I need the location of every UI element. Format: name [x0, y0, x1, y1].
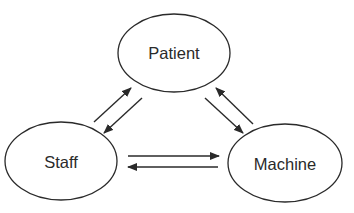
- node-staff: Staff: [5, 122, 117, 200]
- arrow-patient-to-machine: [205, 98, 243, 133]
- node-machine: Machine: [228, 124, 342, 202]
- machine-label: Machine: [254, 155, 316, 173]
- arrow-machine-to-patient: [216, 88, 253, 124]
- arrow-staff-to-patient: [94, 88, 131, 122]
- relationship-diagram: Patient Staff Machine: [0, 0, 354, 213]
- node-patient: Patient: [118, 14, 230, 92]
- staff-label: Staff: [44, 153, 78, 171]
- arrow-patient-to-staff: [104, 98, 142, 133]
- patient-label: Patient: [148, 44, 200, 62]
